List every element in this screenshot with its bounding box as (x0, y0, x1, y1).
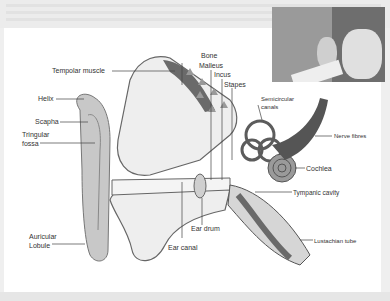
label-cochlea: Cochlea (306, 165, 332, 173)
label-nerve-fibres: Nerve fibres (334, 132, 366, 140)
label-scapha: Scapha (35, 118, 59, 126)
label-auricular-lobule-1: Auricular (29, 233, 57, 241)
eardrum (194, 174, 206, 198)
label-stapes: Stapes (224, 81, 246, 89)
label-bone: Bone (201, 52, 217, 60)
label-ear-canal: Ear canal (168, 244, 198, 252)
label-malleus: Malleus (199, 62, 223, 70)
pinna (77, 94, 110, 261)
label-semicircular-2: canals (261, 103, 278, 111)
label-auricular-lobule-2: Lobule (29, 242, 50, 250)
label-triangular-fossa-2: fossa (22, 140, 39, 148)
label-ear-drum: Ear drum (191, 225, 220, 233)
label-eustachian-tube: Lustachian tube (314, 237, 356, 245)
cochlea (268, 154, 296, 182)
label-temporal-muscle: Tempolar muscle (52, 67, 105, 75)
listening-girl-photo (272, 7, 385, 82)
face (342, 29, 382, 79)
nerve-fibres (272, 98, 328, 160)
label-helix: Helix (38, 95, 54, 103)
label-semicircular-1: Semicircular (261, 95, 294, 103)
label-incus: Incus (214, 71, 231, 79)
label-triangular-fossa-1: Tringular (22, 131, 49, 139)
label-tympanic-cavity: Tympanic cavity (293, 189, 339, 197)
semicircular-canals (242, 121, 281, 161)
